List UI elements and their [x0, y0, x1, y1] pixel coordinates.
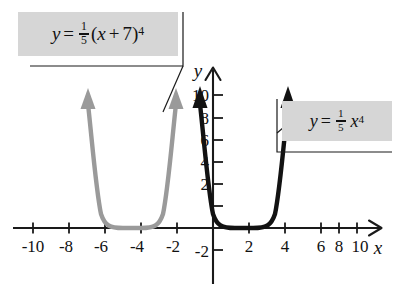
x-tick-label: -10 — [22, 237, 45, 256]
label-left-shift: 7 — [122, 23, 132, 45]
curve-shifted-quartic-arrow-left-icon — [81, 88, 96, 109]
equation-label-base-quartic: y = 1 5 x 4 — [282, 101, 392, 141]
curve-shifted-quartic — [81, 88, 184, 228]
label-left-plus: + — [106, 23, 123, 45]
x-tick-label: -4 — [130, 237, 145, 256]
label-right-denominator: 5 — [336, 122, 346, 133]
x-tick-label: -2 — [166, 237, 180, 256]
equation-label-shifted-quartic: y = 1 5 ( x + 7 ) 4 — [18, 12, 178, 56]
x-axis-label: x — [373, 237, 383, 258]
label-right-equals: = — [318, 111, 334, 132]
label-right-variable: x — [351, 111, 359, 132]
label-right-numerator: 1 — [336, 108, 346, 119]
label-right-y: y — [310, 111, 318, 132]
label-left-numerator: 1 — [79, 21, 89, 33]
x-tick-label: -6 — [94, 237, 108, 256]
label-left-equals: = — [60, 23, 77, 45]
label-left-variable: x — [97, 23, 105, 45]
label-left-y: y — [52, 23, 60, 45]
x-tick-label: 4 — [281, 237, 290, 256]
label-left-fraction: 1 5 — [79, 21, 89, 47]
y-axis-label: y — [192, 60, 203, 81]
x-tick-label: -8 — [59, 237, 73, 256]
curve-shifted-quartic-arrow-right-icon — [169, 88, 184, 109]
curve-shifted-quartic-path — [88, 104, 176, 228]
label-left-denominator: 5 — [79, 35, 89, 47]
y-tick-label: -2 — [195, 242, 209, 261]
x-tick-label: 2 — [245, 237, 254, 256]
x-tick-label: 6 — [317, 237, 326, 256]
x-tick-label: 10 — [352, 237, 369, 256]
x-tick-label: 8 — [335, 237, 344, 256]
label-right-fraction: 1 5 — [336, 108, 346, 133]
